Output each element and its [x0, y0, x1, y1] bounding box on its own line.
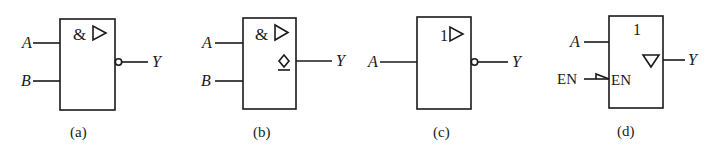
logic-gate-diagram: A B & Y (a) A B & Y (b) A 1 Y (c) A EN E… [0, 0, 714, 151]
open-collector-diamond-icon [279, 55, 289, 67]
gate-d-input-en-label: EN [557, 71, 577, 87]
gate-a-output-label: Y [152, 53, 163, 70]
gate-c-symbol: 1 [440, 27, 448, 44]
gate-c-output-label: Y [512, 53, 523, 70]
gate-b-symbol: & [255, 25, 268, 44]
gate-d-output-label: Y [688, 51, 699, 68]
gate-d-input-a-label: A [569, 33, 580, 50]
gate-a-input-b-label: B [21, 72, 31, 89]
gate-b [215, 18, 332, 109]
gate-a [33, 19, 148, 110]
gate-d-symbol: 1 [633, 21, 641, 38]
gate-d-caption: (d) [617, 123, 635, 140]
tri-state-triangle-icon [643, 55, 659, 67]
gate-b-input-a-label: A [201, 34, 212, 51]
inversion-bubble-icon [115, 59, 121, 65]
inversion-bubble-icon [471, 59, 477, 65]
buffer-triangle-icon [93, 26, 106, 40]
gate-c-caption: (c) [433, 124, 450, 141]
gate-a-symbol: & [73, 25, 86, 44]
gate-b-input-b-label: B [201, 72, 211, 89]
gate-b-output-label: Y [336, 52, 347, 69]
gate-a-caption: (a) [70, 124, 87, 141]
gate-a-input-a-label: A [21, 34, 32, 51]
buffer-triangle-icon [275, 25, 288, 40]
buffer-triangle-icon [450, 27, 463, 41]
gate-d-enable-inner-label: EN [611, 72, 631, 88]
gate-c-input-a-label: A [367, 53, 378, 70]
gate-b-caption: (b) [253, 124, 271, 141]
